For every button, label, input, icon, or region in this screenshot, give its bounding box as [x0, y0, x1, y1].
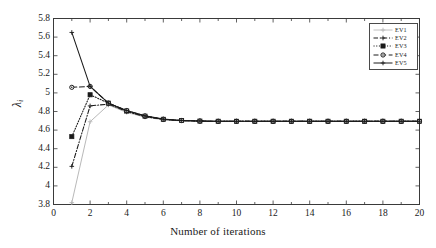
series-ev1 [70, 103, 422, 205]
legend-item-ev3[interactable]: EV3 [372, 42, 415, 50]
x-tick-label: 10 [232, 209, 242, 219]
legend-label: EV1 [394, 27, 407, 33]
x-tick-label: 14 [305, 209, 315, 219]
x-axis-label: Number of iterations [0, 225, 436, 237]
legend-swatch-ev1 [372, 26, 394, 34]
x-tick-label: 0 [51, 209, 56, 219]
legend-label: EV3 [394, 43, 407, 49]
legend-label: EV4 [394, 52, 407, 58]
x-tick-label: 6 [161, 209, 166, 219]
legend: EV1EV2EV3EV4EV5 [369, 23, 418, 70]
legend-swatch-ev4 [372, 51, 394, 59]
x-axis-tick-labels: 02468101214161820 [0, 209, 436, 223]
legend-item-ev4[interactable]: EV4 [372, 51, 415, 59]
series-ev2 [70, 102, 422, 169]
x-tick-label: 8 [198, 209, 203, 219]
legend-swatch-ev2 [372, 34, 394, 42]
x-tick-label: 12 [268, 209, 278, 219]
chart-figure: 3.844.24.44.64.855.25.45.65.8 λi 0246810… [0, 0, 436, 248]
axis-ticks [54, 19, 420, 205]
x-tick-label: 2 [88, 209, 93, 219]
legend-item-ev2[interactable]: EV2 [372, 34, 415, 42]
x-tick-label: 16 [342, 209, 352, 219]
series-ev3 [70, 93, 422, 139]
legend-item-ev1[interactable]: EV1 [372, 26, 415, 34]
x-tick-label: 4 [124, 209, 129, 219]
legend-item-ev5[interactable]: EV5 [372, 59, 415, 67]
series-ev4 [70, 84, 422, 123]
legend-swatch-ev5 [372, 59, 394, 67]
x-tick-label: 18 [378, 209, 388, 219]
legend-swatch-ev3 [372, 42, 394, 50]
x-tick-label: 20 [415, 209, 425, 219]
legend-label: EV5 [394, 60, 407, 66]
legend-label: EV2 [394, 35, 407, 41]
